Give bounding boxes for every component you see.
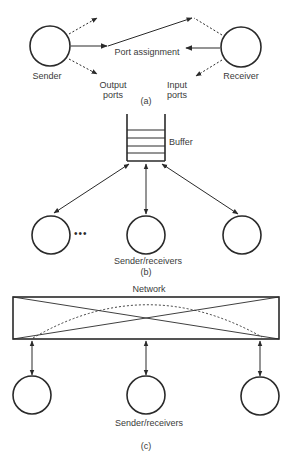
port-assignment-label: Port assignment: [114, 47, 179, 57]
receiver-label: Receiver: [223, 71, 259, 81]
buffer-link-left: [54, 164, 129, 213]
caption-b: (b): [141, 267, 152, 277]
port-assignment-line: [108, 18, 192, 46]
nodes-label-c: Sender/receivers: [115, 418, 183, 428]
nodes-label-b: Sender/receivers: [114, 256, 182, 266]
output-ports-label-line1: Output: [99, 80, 126, 90]
receiver-dashed-down: [196, 60, 222, 76]
node-c-right: [241, 377, 279, 415]
node-b-left: [32, 216, 70, 254]
sender-dashed-up: [69, 18, 97, 34]
input-ports-label-line1: Input: [167, 80, 187, 90]
buffer-link-right: [162, 164, 238, 214]
caption-c: (c): [141, 441, 152, 451]
network-label: Network: [132, 284, 165, 294]
buffer: [127, 114, 165, 161]
receiver-dashed-top: [194, 18, 222, 35]
input-ports-label-line2: ports: [167, 90, 187, 100]
buffer-label: Buffer: [169, 137, 193, 147]
node-b-center: [127, 216, 165, 254]
node-c-center: [127, 376, 165, 414]
ellipsis: •••: [74, 229, 88, 239]
sender-node: [30, 26, 70, 66]
diagram-canvas: [0, 0, 293, 453]
node-c-left: [13, 376, 51, 414]
caption-a: (a): [141, 96, 152, 106]
output-ports-label-line2: ports: [103, 90, 123, 100]
network-dashed-arc: [33, 305, 262, 338]
panel-b: [32, 114, 261, 254]
panel-c: [13, 297, 279, 415]
receiver-node: [221, 27, 261, 67]
node-b-right: [223, 216, 261, 254]
sender-dashed-down: [69, 59, 97, 74]
sender-label: Sender: [32, 71, 61, 81]
